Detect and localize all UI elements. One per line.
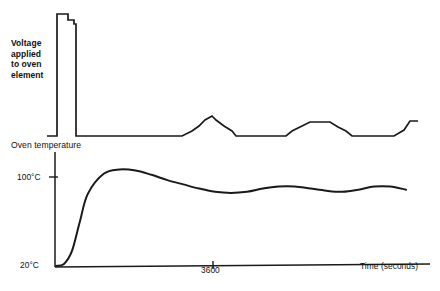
- voltage-label-line-2: applied: [11, 49, 41, 59]
- temperature-axis-label: Oven temperature: [11, 140, 81, 151]
- oven-control-figure: Voltageappliedto ovenelement Oven temper…: [0, 0, 440, 291]
- voltage-waveform-trace: [47, 14, 418, 136]
- voltage-label-line-4: element: [11, 70, 43, 80]
- ytick-label-100c: 100°C: [17, 172, 41, 183]
- voltage-label-line-1: Voltage: [11, 38, 41, 48]
- temperature-response-trace: [56, 169, 406, 266]
- ytick-label-20c: 20°C: [20, 260, 39, 271]
- xtick-label-3600: 3600: [201, 265, 220, 276]
- x-axis-title: Time (seconds): [360, 261, 418, 272]
- voltage-axis-label: Voltageappliedto ovenelement: [11, 38, 59, 80]
- voltage-label-line-3: to oven: [11, 59, 42, 69]
